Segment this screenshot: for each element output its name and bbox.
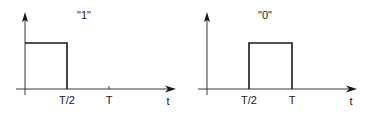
bit-zero-diagram: "0" T/2 T t xyxy=(198,9,357,107)
pulse-waveform xyxy=(25,43,67,89)
diagram-title: "0" xyxy=(258,9,272,21)
diagram-title: "1" xyxy=(77,9,91,21)
tick-label-half-period: T/2 xyxy=(241,94,257,106)
pulse-waveform xyxy=(249,43,292,89)
x-axis-label: t xyxy=(349,95,352,107)
tick-label-half-period: T/2 xyxy=(59,94,75,106)
x-axis-label: t xyxy=(166,95,169,107)
tick-label-period: T xyxy=(289,94,296,106)
tick-label-period: T xyxy=(106,94,113,106)
bit-one-diagram: "1" T/2 T t xyxy=(16,9,176,107)
signal-diagram: "1" T/2 T t "0" T/2 T t xyxy=(0,0,369,114)
